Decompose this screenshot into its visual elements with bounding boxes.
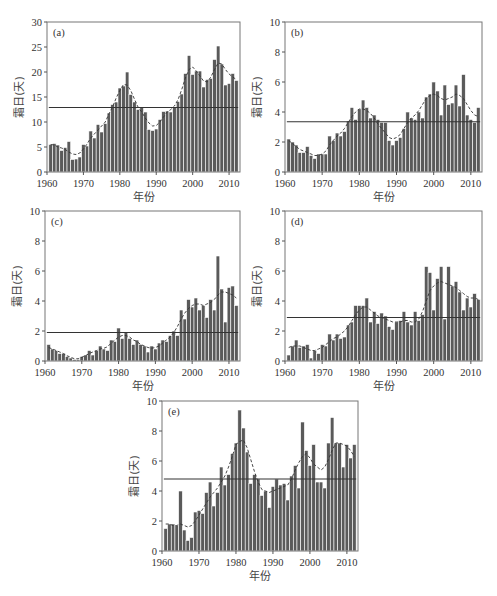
panel-label: (c) <box>51 216 63 228</box>
bar <box>354 306 358 362</box>
x-tick-label: 1990 <box>262 557 283 568</box>
x-axis: 196019701980199020002010 <box>35 361 240 378</box>
bar <box>49 145 53 173</box>
bar <box>436 91 440 172</box>
bar <box>297 488 301 551</box>
bar <box>260 496 264 552</box>
bar <box>267 508 271 552</box>
y-tick-label: 0 <box>275 167 280 178</box>
bar <box>384 316 388 361</box>
y-axis: 0246810 <box>30 206 46 367</box>
bar <box>54 351 58 362</box>
panel-d: 0246810196019701980199020002010年份霜日(天)(d… <box>250 190 497 385</box>
bar <box>51 349 55 361</box>
bar <box>168 524 172 551</box>
bar <box>100 132 104 172</box>
bar <box>154 129 158 172</box>
y-tick-label: 0 <box>35 356 40 367</box>
bar <box>151 131 155 173</box>
bar <box>476 108 480 173</box>
bar <box>216 256 220 361</box>
bar <box>398 138 402 173</box>
bar <box>256 479 260 551</box>
bar <box>309 156 313 173</box>
y-tick-label: 6 <box>275 77 280 88</box>
bar <box>60 151 64 173</box>
bar <box>87 351 91 362</box>
bar <box>182 530 186 551</box>
bars <box>287 75 480 173</box>
bar <box>458 292 462 361</box>
y-tick-label: 8 <box>275 236 280 247</box>
bar <box>109 340 113 361</box>
y-tick-label: 6 <box>35 266 40 277</box>
bar <box>354 120 358 173</box>
bar <box>216 493 220 552</box>
x-tick-label: 1970 <box>312 178 333 189</box>
bar <box>323 488 327 551</box>
y-axis: 051015202530 <box>32 17 48 178</box>
bar <box>328 136 332 172</box>
bar <box>223 322 227 361</box>
x-axis: 196019701980199020002010 <box>275 361 482 378</box>
bar <box>410 118 414 172</box>
bar <box>102 349 106 361</box>
bar <box>212 506 216 551</box>
y-tick-label: 10 <box>270 206 281 217</box>
y-axis-title: 霜日(天) <box>251 76 264 118</box>
bar <box>312 445 316 552</box>
bar <box>198 71 202 172</box>
bar <box>120 339 124 362</box>
x-tick-label: 2000 <box>299 557 320 568</box>
bar <box>339 339 343 362</box>
bar <box>231 74 235 173</box>
bar <box>194 71 198 172</box>
bar <box>395 322 399 361</box>
bar <box>47 345 51 362</box>
bar <box>144 112 148 172</box>
x-tick-label: 1970 <box>188 557 209 568</box>
bar <box>190 538 194 552</box>
bar <box>447 267 451 362</box>
bar <box>202 87 206 172</box>
bar <box>443 85 447 172</box>
bar <box>302 153 306 173</box>
y-tick-label: 10 <box>270 17 281 28</box>
bar <box>473 123 477 173</box>
bar <box>230 454 234 552</box>
bar <box>164 529 168 552</box>
x-tick-label: 2010 <box>460 367 481 378</box>
bar <box>305 147 309 173</box>
y-tick-label: 4 <box>275 107 281 118</box>
bar <box>114 102 118 172</box>
y-axis: 0246810 <box>270 206 286 367</box>
bar <box>343 132 347 173</box>
bar <box>294 340 298 361</box>
bar <box>424 97 428 172</box>
bar <box>447 105 451 173</box>
bar <box>173 107 177 172</box>
chart-b: 0246810196019701980199020002010年份霜日(天)(b… <box>250 0 497 195</box>
bar <box>361 306 365 362</box>
bar <box>271 487 275 552</box>
bar <box>410 325 414 361</box>
bar <box>209 79 213 173</box>
bar <box>106 351 110 362</box>
x-tick-label: 2010 <box>219 178 240 189</box>
bar <box>341 467 345 551</box>
x-tick-label: 1960 <box>275 178 296 189</box>
bar <box>227 84 231 173</box>
x-tick-label: 1960 <box>152 557 173 568</box>
bar <box>369 118 373 172</box>
bar <box>320 154 324 172</box>
chart-d: 0246810196019701980199020002010年份霜日(天)(d… <box>250 190 497 385</box>
bar <box>96 125 100 173</box>
y-tick-label: 0 <box>37 167 42 178</box>
bar <box>424 267 428 362</box>
bar <box>220 289 224 361</box>
panel-c: 0246810196019701980199020002010年份霜日(天)(c… <box>0 190 250 385</box>
bar <box>439 115 443 172</box>
bar <box>421 118 425 172</box>
bar <box>428 273 432 362</box>
bar <box>290 476 294 551</box>
